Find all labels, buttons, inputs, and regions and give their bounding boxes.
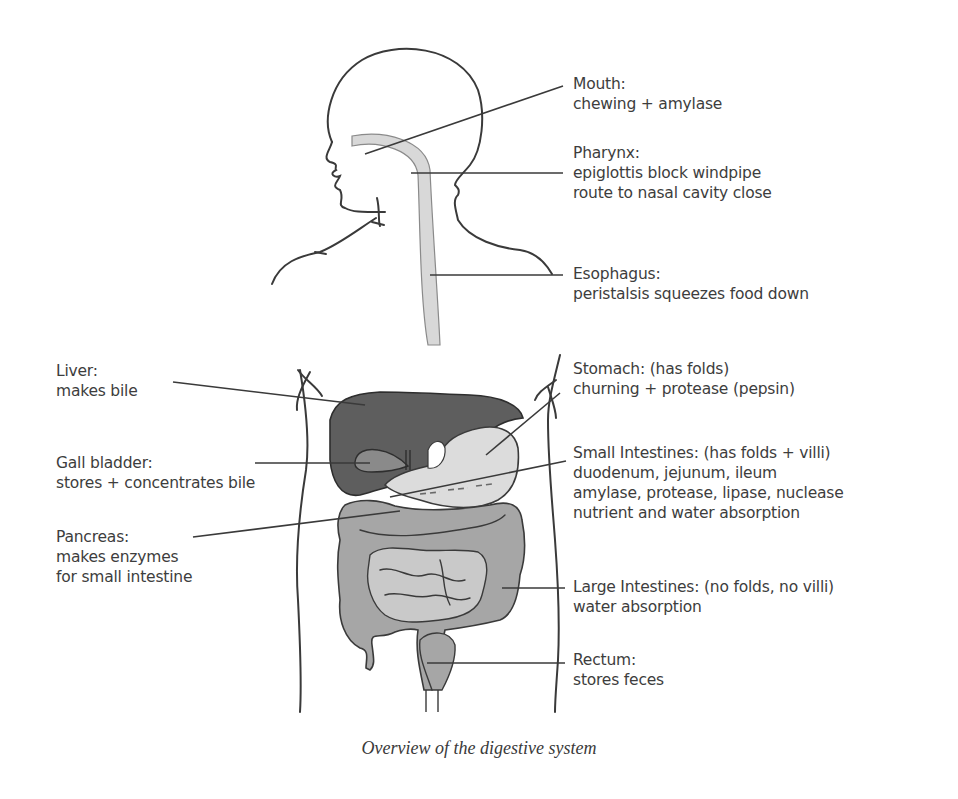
digestive-system-diagram	[0, 0, 958, 799]
label-liver-title: Liver:	[56, 361, 138, 381]
label-gall-bladder-title: Gall bladder:	[56, 453, 255, 473]
small-intestine-shape	[368, 548, 487, 622]
label-mouth: Mouth: chewing + amylase	[573, 74, 722, 114]
label-stomach: Stomach: (has folds) churning + protease…	[573, 359, 795, 399]
label-gall-bladder: Gall bladder: stores + concentrates bile	[56, 453, 255, 493]
label-pharynx-desc-2: route to nasal cavity close	[573, 183, 772, 203]
label-esophagus-title: Esophagus:	[573, 264, 809, 284]
label-pharynx-title: Pharynx:	[573, 143, 772, 163]
leader-mouth	[365, 86, 563, 154]
esophagus-shape	[352, 134, 440, 345]
label-gall-bladder-desc: stores + concentrates bile	[56, 473, 255, 493]
label-mouth-title: Mouth:	[573, 74, 722, 94]
label-stomach-desc: churning + protease (pepsin)	[573, 379, 795, 399]
label-pharynx-desc-1: epiglottis block windpipe	[573, 163, 772, 183]
label-large-intestines-desc: water absorption	[573, 597, 834, 617]
label-stomach-title: Stomach: (has folds)	[573, 359, 795, 379]
label-small-intestines-desc-2: amylase, protease, lipase, nuclease	[573, 483, 844, 503]
label-large-intestines-title: Large Intestines: (no folds, no villi)	[573, 577, 834, 597]
label-large-intestines: Large Intestines: (no folds, no villi) w…	[573, 577, 834, 617]
leader-liver	[173, 382, 365, 405]
label-rectum: Rectum: stores feces	[573, 650, 664, 690]
label-small-intestines-desc-1: duodenum, jejunum, ileum	[573, 463, 844, 483]
label-esophagus: Esophagus: peristalsis squeezes food dow…	[573, 264, 809, 304]
label-mouth-desc: chewing + amylase	[573, 94, 722, 114]
label-liver: Liver: makes bile	[56, 361, 138, 401]
label-small-intestines-title: Small Intestines: (has folds + villi)	[573, 443, 844, 463]
label-esophagus-desc: peristalsis squeezes food down	[573, 284, 809, 304]
label-liver-desc: makes bile	[56, 381, 138, 401]
label-pancreas: Pancreas: makes enzymes for small intest…	[56, 527, 192, 587]
figure-caption: Overview of the digestive system	[0, 738, 958, 759]
label-small-intestines: Small Intestines: (has folds + villi) du…	[573, 443, 844, 523]
label-small-intestines-desc-3: nutrient and water absorption	[573, 503, 844, 523]
label-rectum-desc: stores feces	[573, 670, 664, 690]
label-pharynx: Pharynx: epiglottis block windpipe route…	[573, 143, 772, 203]
label-pancreas-desc-1: makes enzymes	[56, 547, 192, 567]
label-rectum-title: Rectum:	[573, 650, 664, 670]
label-pancreas-desc-2: for small intestine	[56, 567, 192, 587]
label-pancreas-title: Pancreas:	[56, 527, 192, 547]
